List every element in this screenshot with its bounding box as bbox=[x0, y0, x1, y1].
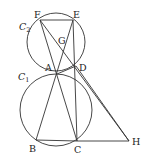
segment-eb bbox=[36, 20, 73, 140]
point-label-f: F bbox=[34, 9, 41, 20]
circle-label-c1: C1 bbox=[18, 71, 29, 84]
point-label-g: G bbox=[58, 35, 66, 46]
segment-bc bbox=[36, 140, 77, 141]
point-label-c: C bbox=[74, 144, 81, 155]
geometry-diagram: FEGADBCHC1C2 bbox=[0, 0, 148, 165]
point-label-a: A bbox=[44, 62, 52, 73]
point-label-d: D bbox=[79, 62, 87, 73]
segments-group bbox=[36, 20, 129, 141]
circles-group bbox=[20, 13, 92, 146]
point-label-e: E bbox=[73, 9, 80, 20]
point-label-h: H bbox=[132, 136, 140, 147]
point-label-b: B bbox=[29, 143, 36, 154]
circle-label-c2: C2 bbox=[19, 21, 30, 34]
segment-dh bbox=[76, 66, 129, 141]
circle-c1 bbox=[20, 74, 92, 146]
segment-ad bbox=[57, 66, 76, 74]
